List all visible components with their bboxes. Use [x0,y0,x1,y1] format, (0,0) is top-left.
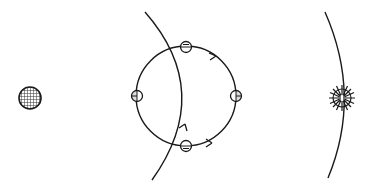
arrow-icon-crossing-arc [179,124,187,131]
crossing-arc [145,12,182,180]
marker-right [231,91,242,102]
hatched-disc [19,87,41,109]
arrow-icon-upper-right [209,53,216,60]
sun-icon [329,85,355,111]
marker-top [181,42,192,53]
orbit-circle [136,46,236,146]
marker-left [132,91,143,102]
marker-bottom [181,141,192,152]
diagram-canvas [0,0,367,185]
